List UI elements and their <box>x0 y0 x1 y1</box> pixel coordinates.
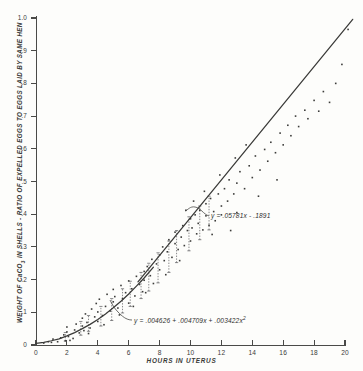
data-point <box>168 239 170 241</box>
data-point <box>287 124 289 126</box>
data-point <box>163 260 165 262</box>
data-point <box>235 157 237 159</box>
data-point <box>94 316 96 318</box>
data-point <box>221 205 223 207</box>
data-point <box>125 292 127 294</box>
data-point <box>156 263 158 265</box>
data-point <box>63 334 65 336</box>
chart-page: 0.1.2.3.4.5.6.7.8.91.002468101214161820 … <box>0 0 363 371</box>
scatter-points <box>43 29 349 344</box>
data-point <box>307 118 309 120</box>
data-point <box>341 64 343 66</box>
data-point <box>270 141 272 143</box>
linear-equation-leader-line <box>185 207 209 216</box>
data-point <box>282 144 284 146</box>
data-point <box>230 230 232 232</box>
data-point <box>51 342 53 344</box>
data-point <box>88 333 90 335</box>
data-point <box>103 324 105 326</box>
data-point <box>211 234 213 236</box>
y-axis-title: WEIGHT OF CaCO3 IN SHELLS - RATIO OF EXP… <box>16 13 25 333</box>
data-point <box>239 171 241 173</box>
data-point <box>95 303 97 305</box>
data-point <box>66 331 68 333</box>
quadratic-fit-curve <box>36 267 153 343</box>
data-point <box>174 243 176 245</box>
data-point <box>57 341 59 343</box>
data-point <box>72 338 74 340</box>
data-point <box>347 29 349 31</box>
data-point <box>117 307 119 309</box>
data-point <box>255 155 257 157</box>
data-point <box>202 229 204 231</box>
data-point <box>224 188 226 190</box>
data-point <box>105 306 107 308</box>
data-point <box>191 227 193 229</box>
data-point <box>245 144 247 146</box>
data-point <box>187 230 189 232</box>
data-point <box>177 249 179 251</box>
data-point <box>264 149 266 151</box>
data-point <box>236 182 238 184</box>
data-point <box>128 280 130 282</box>
data-point <box>97 311 99 313</box>
data-point <box>218 193 220 195</box>
data-point <box>227 200 229 202</box>
data-point <box>66 326 68 328</box>
data-point <box>252 177 254 179</box>
data-point <box>171 257 173 259</box>
data-point <box>143 279 145 281</box>
data-point <box>167 251 169 253</box>
data-point <box>194 214 196 216</box>
data-point <box>112 289 114 291</box>
data-point <box>83 330 85 332</box>
data-point <box>304 109 306 111</box>
data-point <box>184 245 186 247</box>
data-point <box>120 285 122 287</box>
data-point <box>204 191 206 193</box>
data-point <box>205 215 207 217</box>
data-point <box>131 288 133 290</box>
data-point <box>258 195 260 197</box>
data-point <box>335 83 337 85</box>
data-point <box>75 323 77 325</box>
data-point <box>74 329 76 331</box>
linear-fit-equation-label: y = .05781x - .1891 <box>211 212 271 219</box>
data-point <box>329 102 331 104</box>
data-point <box>180 236 182 238</box>
data-point <box>165 274 167 276</box>
data-point <box>298 126 300 128</box>
data-point <box>259 169 261 171</box>
data-point <box>142 291 144 293</box>
data-point <box>151 259 153 261</box>
data-point <box>279 132 281 134</box>
data-point <box>69 340 71 342</box>
data-point <box>134 295 136 297</box>
data-point <box>244 188 246 190</box>
data-point <box>174 231 176 233</box>
data-point <box>210 198 212 200</box>
data-point <box>159 269 161 271</box>
data-point <box>82 317 84 319</box>
data-point <box>143 271 145 273</box>
data-point <box>112 301 114 303</box>
data-point <box>323 91 325 93</box>
data-point <box>196 233 198 235</box>
data-point <box>85 313 87 315</box>
data-point <box>275 152 277 154</box>
data-point <box>179 260 181 262</box>
data-point <box>65 340 67 342</box>
data-point <box>78 332 80 334</box>
data-point <box>114 296 116 298</box>
quadratic-fit-equation-label: y = .004626 + .004709x + .003422x2 <box>134 316 246 324</box>
data-point <box>295 115 297 117</box>
linear-fit-line <box>138 19 353 282</box>
data-point <box>86 322 88 324</box>
data-point <box>197 223 199 225</box>
data-point <box>82 325 84 327</box>
data-point <box>136 276 138 278</box>
data-point <box>267 160 269 162</box>
data-point <box>219 174 221 176</box>
data-point <box>153 283 155 285</box>
data-point <box>133 306 135 308</box>
